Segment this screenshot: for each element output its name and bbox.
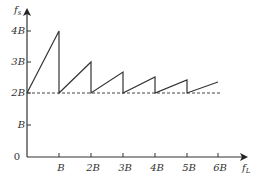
x-tick-label: B	[56, 162, 64, 173]
y-tick-label: 3B	[11, 56, 25, 67]
sawtooth-series	[27, 31, 218, 93]
y-tick-label: B	[17, 119, 25, 130]
x-tick-label: 4B	[149, 162, 164, 173]
y-tick-label: 4B	[10, 25, 25, 36]
x-tick-label: 5B	[182, 162, 196, 173]
x-tick-label: 2B	[85, 162, 100, 173]
x-tick-label: 3B	[118, 162, 132, 173]
x-axis-label: fL	[241, 162, 251, 175]
sampling-rate-chart: 0 B 2B 3B 4B B 2B 3B 4B 5B 6B fs fL	[0, 0, 257, 181]
x-tick-label: 6B	[213, 162, 227, 173]
y-tick-label: 0	[14, 151, 20, 162]
y-axis-label: fs	[13, 4, 22, 17]
y-tick-label: 2B	[10, 87, 25, 98]
